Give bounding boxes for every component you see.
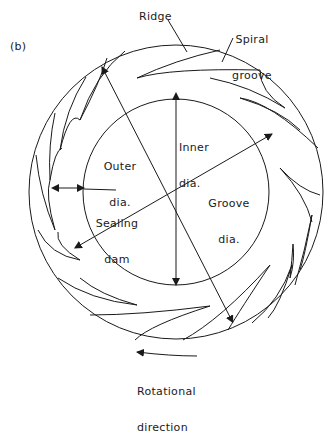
rotational-direction-label: Rotational direction [137, 362, 196, 435]
spiral-groove-label: Spiral groove [232, 10, 272, 94]
panel-label: (b) [10, 41, 26, 53]
ridge-leader [168, 20, 187, 52]
inner-dia-label: Inner dia. [179, 118, 209, 202]
spiral-grooves [36, 50, 320, 340]
sealing-dam-label: Sealing dam [94, 194, 140, 278]
groove-dia-label: Groove dia. [206, 174, 252, 258]
rotation-arrow [137, 352, 197, 356]
ridge-label: Ridge [139, 11, 172, 23]
